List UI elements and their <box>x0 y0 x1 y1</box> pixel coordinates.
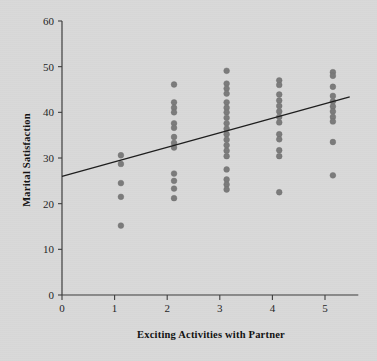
scatter-point <box>171 134 177 140</box>
scatter-point <box>224 153 230 159</box>
scatter-point <box>171 186 177 192</box>
scatter-point <box>224 115 230 121</box>
plot-canvas: 0102030405060 012345 Exciting Activities… <box>0 0 377 361</box>
scatter-point <box>276 153 282 159</box>
y-tick-label: 40 <box>43 106 55 118</box>
scatter-point <box>118 152 124 158</box>
y-tick-label: 20 <box>43 198 55 210</box>
scatter-point <box>276 147 282 153</box>
scatter-point <box>330 119 336 125</box>
scatter-point <box>330 93 336 99</box>
scatter-point <box>224 68 230 74</box>
scatter-point <box>276 82 282 88</box>
y-tick-label: 50 <box>43 61 55 73</box>
y-tick-label: 10 <box>43 243 55 255</box>
y-tick-label: 60 <box>43 15 55 27</box>
y-axis-title: Marital Satisfaction <box>21 113 32 207</box>
scatter-point <box>118 161 124 167</box>
scatter-point <box>171 109 177 115</box>
scatter-point <box>118 180 124 186</box>
scatter-plot-figure: 0102030405060 012345 Exciting Activities… <box>0 0 377 361</box>
scatter-point <box>224 142 230 148</box>
y-axis-ticks: 0102030405060 <box>43 15 62 301</box>
scatter-point <box>171 178 177 184</box>
scatter-point <box>330 73 336 79</box>
scatter-point <box>224 187 230 193</box>
data-points <box>118 68 336 229</box>
scatter-point <box>118 194 124 200</box>
scatter-point <box>171 125 177 131</box>
scatter-point <box>276 109 282 115</box>
x-tick-label: 3 <box>217 302 223 314</box>
scatter-point <box>276 189 282 195</box>
scatter-point <box>171 171 177 177</box>
scatter-point <box>171 82 177 88</box>
x-axis-title: Exciting Activities with Partner <box>137 329 285 340</box>
scatter-point <box>224 109 230 115</box>
regression-line <box>62 97 350 176</box>
scatter-point <box>330 139 336 145</box>
scatter-point <box>224 131 230 137</box>
scatter-point <box>224 148 230 154</box>
x-tick-label: 1 <box>112 302 118 314</box>
scatter-point <box>330 109 336 115</box>
scatter-point <box>224 167 230 173</box>
x-tick-label: 2 <box>164 302 170 314</box>
scatter-point <box>276 119 282 125</box>
scatter-point <box>171 195 177 201</box>
y-tick-label: 30 <box>43 152 55 164</box>
scatter-point <box>276 92 282 98</box>
scatter-point <box>276 103 282 109</box>
scatter-point <box>224 137 230 143</box>
scatter-point <box>330 84 336 90</box>
scatter-point <box>330 172 336 178</box>
scatter-point <box>224 120 230 126</box>
scatter-point <box>171 99 177 105</box>
x-tick-label: 4 <box>270 302 276 314</box>
scatter-point <box>276 136 282 142</box>
scatter-point <box>118 223 124 229</box>
y-tick-label: 0 <box>49 289 55 301</box>
x-tick-label: 0 <box>59 302 65 314</box>
scatter-point <box>224 99 230 105</box>
scatter-point <box>276 98 282 104</box>
scatter-point <box>224 91 230 97</box>
x-axis-ticks: 012345 <box>59 295 328 314</box>
x-tick-label: 5 <box>322 302 328 314</box>
